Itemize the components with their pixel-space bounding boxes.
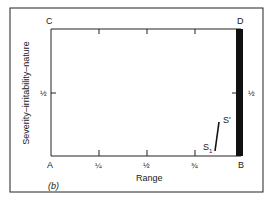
x-axis-label: Range bbox=[136, 173, 163, 183]
x-tick-three-quarter: ¾ bbox=[191, 161, 198, 170]
bd-bar bbox=[236, 29, 243, 156]
y-tick-half-left: ½ bbox=[40, 89, 47, 98]
y-axis-label: Severity–irritability–nature bbox=[21, 41, 31, 145]
s1-label: S1 bbox=[203, 142, 212, 156]
axes bbox=[51, 29, 241, 156]
y-tick-half-right: ½ bbox=[248, 89, 255, 98]
corner-c: C bbox=[46, 16, 53, 26]
corner-b: B bbox=[238, 160, 244, 170]
x-tick-half: ½ bbox=[143, 161, 150, 170]
s-line bbox=[215, 122, 219, 151]
corner-d: D bbox=[237, 16, 244, 26]
chart-canvas bbox=[0, 0, 269, 204]
panel-label: (b) bbox=[48, 181, 59, 191]
corner-a: A bbox=[47, 160, 53, 170]
x-tick-quarter: ¼ bbox=[95, 161, 102, 170]
sprime-label: S' bbox=[223, 115, 231, 125]
